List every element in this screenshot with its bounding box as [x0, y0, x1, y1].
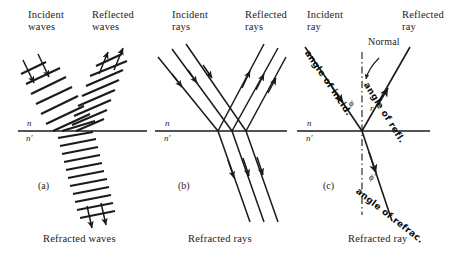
panel-c-reflected-ray-label: Reflected ray: [402, 9, 444, 32]
panel-a-caption: Refracted waves: [43, 233, 116, 245]
panel-c-medium-n-prime: n′: [306, 133, 312, 143]
panel-b-incident-rays-label: Incident rays: [172, 9, 208, 32]
panel-a-medium-n-prime: n′: [26, 133, 32, 143]
refracted-rays-b: [218, 131, 278, 222]
panel-c-incident-line2: ray: [307, 21, 321, 32]
panel-b-medium-n-prime: n′: [164, 133, 170, 143]
panel-c-incident-ray-label: Incident ray: [307, 9, 343, 32]
normal-label: Normal: [368, 36, 400, 48]
incident-ray-arrowheads-b: [172, 65, 212, 87]
panel-b-incident-line1: Incident: [172, 9, 208, 20]
reflected-rays-b: [218, 44, 286, 131]
panel-b-reflected-line2: rays: [245, 21, 263, 32]
panel-a-incident-line2: waves: [28, 21, 55, 32]
panel-c-reflected-line1: Reflected: [402, 9, 444, 20]
panel-c-medium-n: n: [307, 118, 312, 128]
angle-of-refraction-symbol: ϕ′: [369, 172, 376, 182]
panel-b-graphics: [155, 44, 287, 222]
panel-c-caption: Refracted ray: [348, 233, 407, 245]
panel-c-label: (c): [323, 180, 334, 191]
panel-b-reflected-line1: Reflected: [245, 9, 287, 20]
panel-c-reflected-line2: ray: [402, 21, 416, 32]
refracted-ray-arrowheads-b: [228, 157, 263, 178]
optics-figure: Incident waves Reflected waves n n′ (a) …: [0, 0, 452, 258]
incident-rays-b: [158, 44, 246, 131]
panel-a-medium-n: n: [27, 118, 32, 128]
panel-b-caption: Refracted rays: [188, 233, 252, 245]
panel-c-incident-line1: Incident: [307, 9, 343, 20]
panel-b-reflected-rays-label: Reflected rays: [245, 9, 287, 32]
refracted-ray-arrow-c: [369, 152, 376, 173]
panel-b-incident-line2: rays: [172, 21, 190, 32]
panel-a-incident-waves-label: Incident waves: [28, 9, 64, 32]
panel-a-reflected-line2: waves: [92, 21, 119, 32]
normal-pointer-arrow: [366, 58, 379, 79]
panel-a-reflected-waves-label: Reflected waves: [92, 9, 134, 32]
refracted-wavefronts-a: [58, 132, 115, 218]
panel-a-reflected-line1: Reflected: [92, 9, 134, 20]
panel-a-label: (a): [38, 180, 49, 191]
panel-a-graphics: [18, 48, 147, 228]
panel-b-medium-n: n: [165, 118, 170, 128]
panel-a-incident-line1: Incident: [28, 9, 64, 20]
panel-b-label: (b): [178, 180, 190, 191]
